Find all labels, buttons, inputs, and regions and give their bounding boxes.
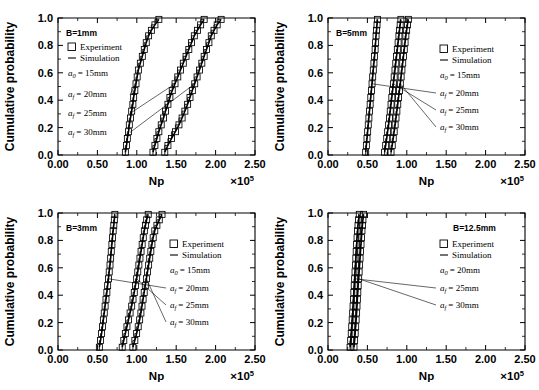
y-tick-label: 0.8 [38, 234, 53, 246]
final-crack-annotation: af= 25mm [68, 108, 107, 119]
y-tick-label: 0.8 [308, 39, 323, 51]
legend-experiment-marker [170, 240, 178, 248]
panel-title: B=3mm [66, 223, 97, 233]
panel-title: B=12.5mm [453, 223, 496, 233]
final-crack-annotation: af= 30mm [68, 127, 107, 138]
simulation-curve [366, 19, 378, 152]
legend-experiment-marker [68, 43, 76, 51]
panel-b5mm-plot: 0.000.501.001.502.002.500.00.20.40.60.81… [270, 0, 539, 195]
final-crack-annotation: af= 20mm [68, 89, 107, 100]
panel-b5mm: 0.000.501.001.502.002.500.00.20.40.60.81… [270, 0, 539, 195]
x-tick-label: 2.50 [514, 353, 535, 365]
x-tick-label: 0.50 [87, 158, 108, 170]
panel-title: B=1mm [66, 28, 97, 38]
final-crack-annotation: af= 25mm [440, 283, 479, 294]
legend-experiment-label: Experiment [182, 239, 224, 249]
legend-simulation-label: Simulation [182, 250, 222, 260]
y-tick-label: 0.4 [38, 289, 54, 301]
x-axis-exponent: ×105 [230, 369, 254, 382]
x-axis-exponent: ×105 [230, 174, 254, 187]
x-axis-exponent: ×105 [500, 174, 524, 187]
legend-experiment-marker [440, 240, 448, 248]
x-tick-label: 2.50 [514, 158, 535, 170]
final-crack-annotation: af= 20mm [440, 88, 479, 99]
y-tick-label: 0.8 [38, 39, 53, 51]
y-tick-label: 0.6 [308, 262, 323, 274]
x-tick-label: 1.50 [435, 158, 456, 170]
x-axis-title: Np [149, 370, 164, 382]
y-tick-label: 0.4 [38, 94, 54, 106]
final-crack-annotation: af= 20mm [170, 283, 209, 294]
y-tick-label: 0.0 [38, 344, 53, 356]
x-tick-label: 1.00 [396, 158, 417, 170]
x-tick-label: 0.50 [357, 158, 378, 170]
annotation-leader-line [146, 279, 166, 322]
x-tick-label: 1.00 [126, 158, 147, 170]
y-tick-label: 0.2 [38, 122, 53, 134]
legend-simulation-label: Simulation [452, 250, 492, 260]
series-af-20mm [96, 211, 118, 350]
plot-frame [328, 18, 525, 155]
panel-b1mm-plot: 0.000.501.001.502.002.500.00.20.40.60.81… [0, 0, 269, 195]
simulation-curve [99, 214, 115, 347]
annotation-leader-line [355, 279, 436, 288]
x-tick-label: 0.50 [357, 353, 378, 365]
y-tick-label: 0.0 [38, 149, 53, 161]
x-tick-label: 1.00 [396, 353, 417, 365]
y-tick-label: 0.4 [308, 289, 324, 301]
y-tick-label: 0.4 [308, 94, 324, 106]
panel-title: B=5mm [336, 28, 367, 38]
legend-experiment-label: Experiment [452, 239, 494, 249]
panel-b3mm: 0.000.501.001.502.002.500.00.20.40.60.81… [0, 195, 269, 390]
y-axis-title: Cumulative probability [273, 22, 287, 152]
x-tick-label: 1.50 [165, 158, 186, 170]
final-crack-annotation: af= 30mm [170, 317, 209, 328]
y-tick-label: 1.0 [308, 12, 323, 24]
y-tick-label: 0.0 [308, 149, 323, 161]
annotation-leader-line [108, 279, 166, 288]
legend-experiment-marker [440, 45, 448, 53]
legend-simulation-label: Simulation [452, 55, 492, 65]
y-axis-title: Cumulative probability [3, 22, 17, 152]
y-tick-label: 1.0 [38, 12, 53, 24]
y-tick-label: 0.2 [308, 317, 323, 329]
y-tick-label: 1.0 [308, 207, 323, 219]
x-axis-title: Np [149, 175, 164, 187]
y-axis-title: Cumulative probability [3, 217, 17, 347]
final-crack-annotation: af= 30mm [440, 122, 479, 133]
legend-experiment-label: Experiment [80, 42, 122, 52]
figure-root: 0.000.501.001.502.002.500.00.20.40.60.81… [0, 0, 539, 390]
y-axis-title: Cumulative probability [273, 217, 287, 347]
x-axis-title: Np [419, 175, 434, 187]
legend-simulation-label: Simulation [80, 53, 120, 63]
initial-crack-annotation: a0= 15mm [440, 70, 480, 81]
legend-experiment-label: Experiment [452, 44, 494, 54]
final-crack-annotation: af= 25mm [170, 300, 209, 311]
series-af-30mm [162, 16, 224, 155]
y-tick-label: 0.2 [308, 122, 323, 134]
annotation-leader-line [359, 279, 436, 305]
y-tick-label: 0.6 [38, 262, 53, 274]
y-tick-label: 0.6 [38, 67, 53, 79]
panel-b3mm-plot: 0.000.501.001.502.002.500.00.20.40.60.81… [0, 195, 269, 390]
x-tick-label: 2.00 [205, 158, 226, 170]
initial-crack-annotation: a0= 15mm [68, 68, 108, 79]
x-axis-title: Np [419, 370, 434, 382]
initial-crack-annotation: a0= 20mm [440, 265, 480, 276]
y-tick-label: 0.2 [38, 317, 53, 329]
panel-b12_5mm-plot: 0.000.501.001.502.002.500.00.20.40.60.81… [270, 195, 539, 390]
y-tick-label: 0.0 [308, 344, 323, 356]
initial-crack-annotation: a0= 15mm [170, 265, 210, 276]
x-tick-label: 1.00 [126, 353, 147, 365]
x-tick-label: 1.50 [165, 353, 186, 365]
x-tick-label: 0.50 [87, 353, 108, 365]
final-crack-annotation: af= 30mm [440, 300, 479, 311]
y-tick-label: 0.6 [308, 67, 323, 79]
x-tick-label: 1.50 [435, 353, 456, 365]
x-axis-exponent: ×105 [500, 369, 524, 382]
final-crack-annotation: af= 25mm [440, 105, 479, 116]
x-tick-label: 2.00 [475, 158, 496, 170]
x-tick-label: 2.00 [475, 353, 496, 365]
x-tick-label: 2.50 [244, 158, 265, 170]
series-af-30mm [388, 16, 411, 155]
